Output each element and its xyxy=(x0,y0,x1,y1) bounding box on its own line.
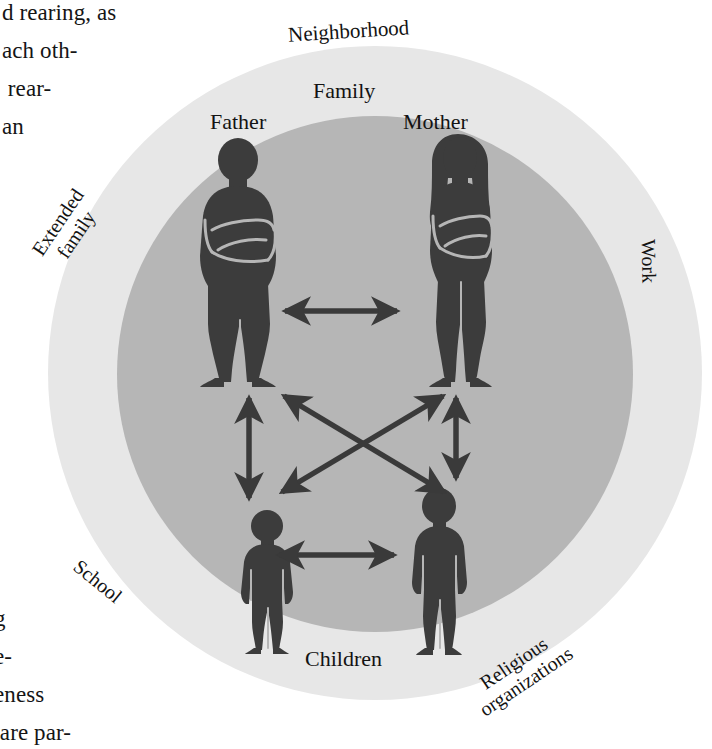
child-silhouette-icon xyxy=(400,488,478,656)
child-silhouette-icon xyxy=(230,510,304,655)
body-text-fragment-top: d rearing, as ach oth- rear- an xyxy=(2,0,116,146)
figure-child-right xyxy=(400,488,478,660)
inner-circle-label-family: Family xyxy=(313,79,375,104)
figure-father xyxy=(188,138,288,392)
figure-child-left xyxy=(230,510,304,659)
figure-label-father: Father xyxy=(210,110,266,135)
figure-label-children: Children xyxy=(305,647,382,672)
figure-mother xyxy=(412,130,508,392)
ring-label-neighborhood: Neighborhood xyxy=(287,16,410,47)
ring-label-work: Work xyxy=(637,239,660,283)
father-silhouette-icon xyxy=(188,138,288,388)
body-text-fragment-bottom: g e- eness are par- xyxy=(0,600,71,749)
mother-silhouette-icon xyxy=(412,130,508,388)
